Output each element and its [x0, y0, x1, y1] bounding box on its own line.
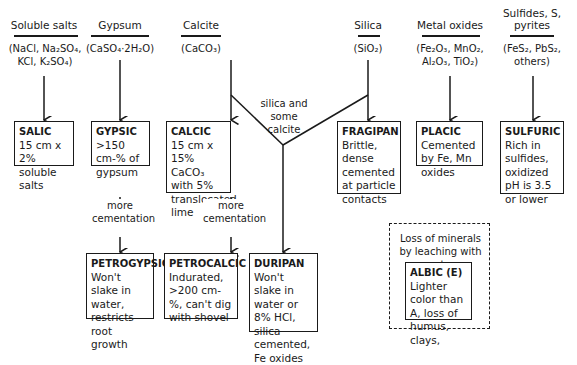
header-rule	[181, 35, 221, 37]
formula-silica: (SiO₂)	[348, 42, 388, 55]
header-rule	[14, 35, 78, 37]
header-soluble-salts: Soluble salts	[4, 19, 84, 31]
box-calcic: CALCIC 15 cm x 15% CaCO₃ with 5% translo…	[166, 121, 231, 193]
box-albic: ALBIC (E) Lighter color than A, loss of …	[405, 262, 472, 320]
formula-soluble-salts: (NaCl, Na₂SO₄, KCl, K₂SO₄)	[8, 42, 82, 68]
header-rule	[422, 35, 480, 37]
formula-metal-oxides: (Fe₂O₃, MnO₂, Al₂O₃, TiO₂)	[412, 42, 488, 68]
box-title: DURIPAN	[254, 257, 313, 271]
box-title: PETROGYPSIC	[91, 257, 149, 271]
box-description: Brittle, dense cemented at particle cont…	[342, 139, 396, 205]
header-metal-oxides: Metal oxides	[415, 19, 485, 31]
box-fragipan: FRAGIPAN Brittle, dense cemented at part…	[337, 121, 401, 194]
header-gypsum: Gypsum	[88, 19, 152, 31]
box-sulfuric: SULFURIC Rich in sulfides, oxidized pH i…	[500, 121, 564, 194]
formula-calcite: (CaCO₃)	[176, 42, 226, 55]
box-description: Won't slake in water or 8% HCl, silica c…	[254, 271, 310, 364]
label-silica-calcite: silica and some calcite	[258, 97, 310, 136]
box-description: Lighter color than A, loss of humus, cla…	[410, 280, 463, 346]
label-more-cementation: more cementation	[203, 199, 259, 225]
box-description: 15 cm x 2% soluble salts	[19, 139, 61, 192]
box-title: SULFURIC	[505, 125, 559, 139]
box-description: Cemented by Fe, Mn oxides	[421, 139, 475, 178]
formula-sulfides: (FeS₂, PbS₂, others)	[500, 42, 564, 68]
box-description: >150 cm-% of gypsum	[96, 139, 139, 178]
box-title: PETROCALCIC	[169, 257, 233, 271]
header-silica: Silica	[348, 19, 388, 31]
formula-gypsum: (CaSO₄·2H₂O)	[84, 42, 156, 55]
box-placic: PLACIC Cemented by Fe, Mn oxides	[416, 121, 483, 166]
box-title: ALBIC (E)	[410, 266, 467, 280]
box-description: Indurated, >200 cm-%, can't dig with sho…	[169, 271, 231, 324]
label-more-cementation: more cementation	[92, 199, 148, 225]
box-salic: SALIC 15 cm x 2% soluble salts	[14, 121, 74, 166]
box-title: CALCIC	[171, 125, 226, 139]
header-rule	[510, 35, 554, 37]
box-title: FRAGIPAN	[342, 125, 396, 139]
box-description: Won't slake in water, restricts root gro…	[91, 271, 134, 351]
box-title: GYPSIC	[96, 125, 145, 139]
header-rule	[358, 35, 380, 37]
box-description: Rich in sulfides, oxidized pH is 3.5 or …	[505, 139, 551, 205]
header-rule	[91, 35, 149, 37]
box-gypsic: GYPSIC >150 cm-% of gypsum	[91, 121, 150, 166]
box-title: PLACIC	[421, 125, 478, 139]
box-title: SALIC	[19, 125, 69, 139]
box-petrogypsic: PETROGYPSIC Won't slake in water, restri…	[86, 253, 154, 319]
header-sulfides: Sulfides, S, pyrites	[502, 7, 562, 31]
box-petrocalcic: PETROCALCIC Indurated, >200 cm-%, can't …	[164, 253, 238, 319]
box-duripan: DURIPAN Won't slake in water or 8% HCl, …	[249, 253, 318, 332]
header-calcite: Calcite	[176, 19, 226, 31]
